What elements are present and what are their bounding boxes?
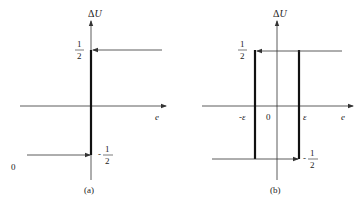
- svg-text:2: 2: [310, 160, 315, 170]
- svg-text:1: 1: [240, 39, 245, 49]
- panel-caption: (b): [270, 185, 281, 195]
- svg-text:1: 1: [77, 39, 82, 49]
- y-axis-label: ΔU: [88, 8, 102, 19]
- origin-label: 0: [11, 162, 16, 172]
- upper-level-label: 1 2: [238, 39, 247, 61]
- panel-b: ΔU e 1 2 - 1 2 -ε 0 ε (b): [202, 8, 353, 195]
- relay-characteristic-diagram: ΔU e 1 2 - 1 2 0 (a) ΔU e 1: [0, 0, 361, 209]
- svg-text:2: 2: [77, 51, 82, 61]
- origin-label: 0: [266, 112, 271, 122]
- svg-text:1: 1: [310, 148, 315, 158]
- y-axis-label: ΔU: [273, 8, 287, 19]
- upper-level-label: 1 2: [75, 39, 84, 61]
- x-axis-label: e: [341, 112, 345, 122]
- neg-threshold-label: -ε: [239, 112, 246, 122]
- svg-text:-: -: [303, 153, 306, 163]
- panel-a: ΔU e 1 2 - 1 2 0 (a): [11, 8, 166, 195]
- panel-caption: (a): [84, 185, 94, 195]
- svg-text:2: 2: [105, 156, 110, 166]
- x-axis-label: e: [155, 112, 159, 122]
- svg-text:1: 1: [105, 144, 110, 154]
- lower-level-label: - 1 2: [303, 148, 318, 170]
- lower-level-label: - 1 2: [98, 144, 113, 166]
- svg-text:-: -: [98, 149, 101, 159]
- pos-threshold-label: ε: [303, 112, 307, 122]
- svg-text:2: 2: [240, 51, 245, 61]
